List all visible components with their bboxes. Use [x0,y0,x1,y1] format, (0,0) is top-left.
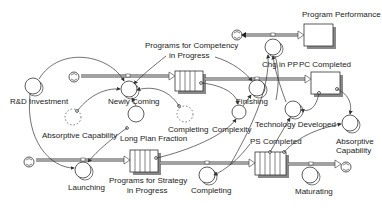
programs-competency-label-2: in Progress [169,51,209,60]
programs-competency-stock[interactable] [175,71,206,94]
pc-completed-label: PC Completed [299,60,351,69]
cloud-icon [24,157,34,167]
pipe-arrow-icon [298,31,304,39]
pipe-arrow-icon [169,72,175,80]
valve-icon [309,162,313,165]
absorptive-capability-right-label-2: Capability [336,146,371,155]
chg-in-pp-label: Chg in PP [262,60,298,69]
programs-strategy-stock[interactable] [130,150,161,175]
finishing-label: Finishing [236,97,268,106]
launching-flow[interactable] [75,162,93,180]
maturating-label: Maturating [295,187,333,196]
ps-completed-stock[interactable] [255,151,289,178]
valve-icon [255,77,259,80]
complexity-label: Complexity [212,125,252,134]
long-plan-fraction-aux[interactable] [128,106,144,122]
pipe-arrow-icon [335,160,341,168]
completing-label: Completing [191,186,231,195]
absorptive-capability-left-label: Absorptive Capability [42,131,117,140]
cloud-icon [69,72,79,82]
maturating-flow[interactable] [302,167,320,185]
valve-icon [126,74,130,77]
valve-icon [271,33,275,36]
pc-completed-stock[interactable] [311,72,340,94]
program-performance-group: Program Performance [302,10,381,49]
completing-ghost[interactable] [177,106,193,122]
programs-strategy-label-1: Programs for Strategy [109,176,187,185]
pipe-arrow-icon [124,156,130,164]
technology-developed-label: Technology Developed [255,120,336,129]
completing-ghost-label: Completing [168,125,208,134]
long-plan-fraction-label: Long Plan Fraction [120,134,187,143]
launching-label: Launching [68,183,105,192]
valve-icon [205,161,209,164]
rd-investment-aux[interactable] [25,78,43,96]
program-performance-label: Program Performance [302,10,381,19]
program-performance-stock[interactable] [304,24,333,46]
rd-investment-label: R&D Investment [10,97,69,106]
completing-flow[interactable] [199,167,217,185]
stock-flow-diagram: Program Performance Chg in PP PC Complet… [0,0,382,208]
chg-in-pp-flow[interactable] [265,39,283,57]
cloud-icon [341,162,351,172]
programs-competency-label-1: Programs for Competency [145,41,238,50]
technology-developed-aux[interactable] [285,101,303,119]
valve-icon [81,158,85,161]
cloud-icon [232,30,242,40]
pipe-arrow-icon [249,159,255,167]
absorptive-capability-right-aux[interactable] [342,115,360,133]
absorptive-capability-right-label-1: Absorptive [336,137,374,146]
programs-strategy-label-2: in Progress [127,186,167,195]
pipe-arrow-icon [305,75,311,83]
complexity-aux[interactable] [232,105,246,119]
